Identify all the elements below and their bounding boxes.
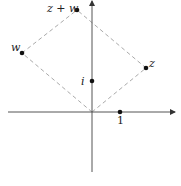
- label-i: i: [81, 75, 85, 88]
- points: [20, 8, 149, 115]
- point-i: [90, 79, 95, 84]
- point-z: [144, 66, 149, 71]
- label-one: 1: [117, 114, 124, 127]
- edge-z-zw: [77, 10, 146, 68]
- complex-plane-diagram: 1 i z w z + w: [0, 0, 181, 186]
- label-z: z: [148, 57, 155, 70]
- edge-w-zw: [22, 10, 77, 53]
- parallelogram: [22, 10, 146, 112]
- label-z-plus-w: z + w: [46, 2, 79, 15]
- label-w: w: [11, 41, 21, 54]
- edge-origin-z: [92, 68, 146, 112]
